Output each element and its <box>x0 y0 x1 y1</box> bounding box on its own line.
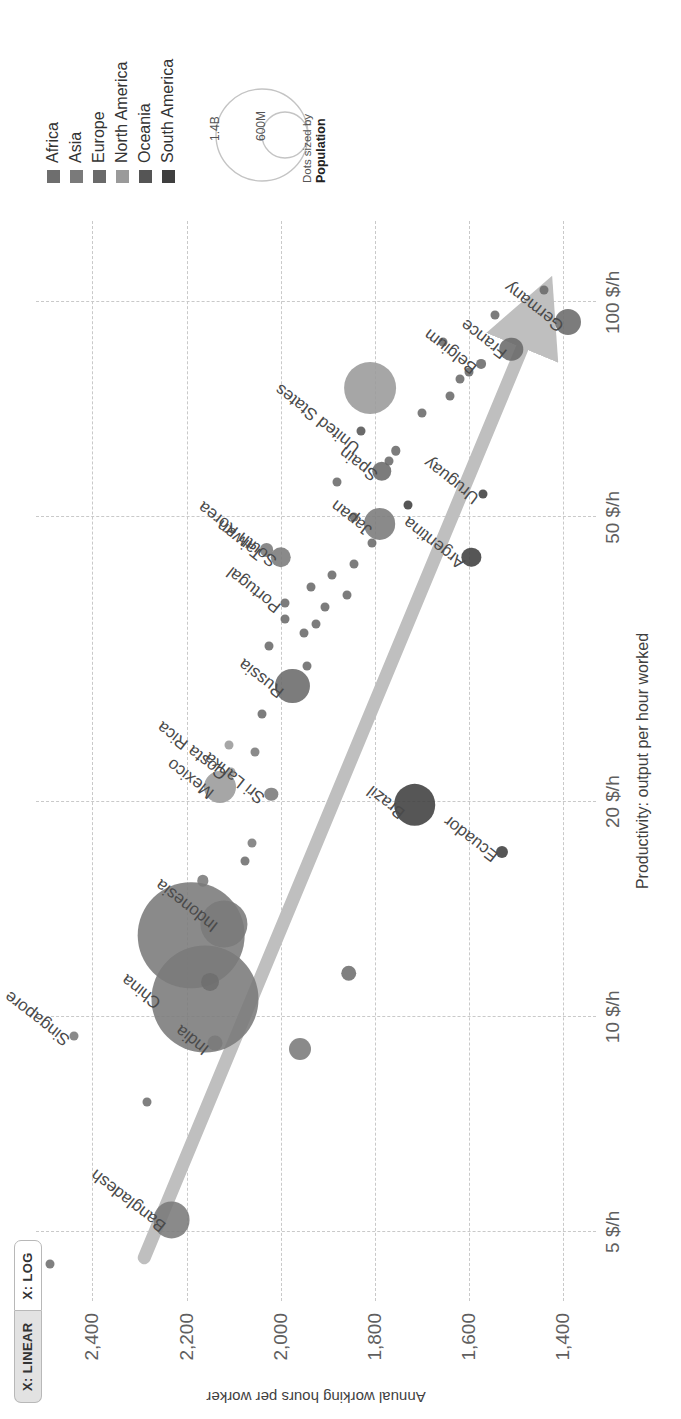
point-label: Japan <box>327 495 376 539</box>
size-legend-big-value: 1.4B <box>208 116 222 141</box>
trend-arrow <box>36 221 596 1301</box>
size-legend-note: Dots sized by Population <box>300 114 330 183</box>
x-linear-toggle[interactable]: X: LINEAR <box>14 1311 42 1403</box>
legend-item-africa[interactable]: Africa <box>44 59 62 183</box>
y-tick-label: 2,000 <box>270 1313 292 1361</box>
figure: X: LINEAR X: LOG BangladeshSingaporeIndi… <box>0 0 681 1419</box>
data-point[interactable] <box>300 628 309 637</box>
y-axis-title: Annual working hours per worker <box>206 1389 425 1406</box>
data-point[interactable] <box>142 1097 151 1106</box>
legend-label: North America <box>113 62 131 163</box>
y-tick-label: 2,200 <box>176 1313 198 1361</box>
data-point[interactable] <box>281 615 290 624</box>
legend-swatch-icon <box>162 170 175 183</box>
data-point[interactable] <box>356 427 365 436</box>
x-tick-label: 5 $/h <box>602 1211 624 1253</box>
x-axis-title: Productivity: output per hour worked <box>634 633 652 889</box>
legend-label: South America <box>159 59 177 163</box>
data-point[interactable] <box>257 710 266 719</box>
data-point[interactable] <box>341 966 357 982</box>
chart-canvas: X: LINEAR X: LOG BangladeshSingaporeIndi… <box>0 0 681 1419</box>
gridline-horizontal <box>469 221 470 1301</box>
point-label: Singapore <box>0 986 73 1049</box>
data-point[interactable] <box>446 391 455 400</box>
legend-item-europe[interactable]: Europe <box>90 59 108 183</box>
data-point[interactable] <box>321 602 330 611</box>
data-point[interactable] <box>224 741 233 750</box>
gridline-vertical <box>36 1016 596 1017</box>
data-point[interactable] <box>333 478 342 487</box>
data-point[interactable] <box>417 409 426 418</box>
y-tick-label: 1,400 <box>552 1313 574 1361</box>
data-point[interactable] <box>248 839 257 848</box>
legend-label: Africa <box>44 122 62 163</box>
size-note-line2: Population <box>314 118 328 183</box>
data-point[interactable] <box>302 661 311 670</box>
data-point[interactable] <box>368 539 377 548</box>
legend-swatch-icon <box>116 170 129 183</box>
size-note-line1: Dots sized by <box>300 114 314 183</box>
data-point[interactable] <box>384 456 393 465</box>
size-legend-small-value: 600M <box>254 111 268 141</box>
gridline-horizontal <box>187 221 188 1301</box>
gridline-horizontal <box>563 221 564 1301</box>
y-tick-label: 2,400 <box>81 1313 103 1361</box>
data-point[interactable] <box>264 642 273 651</box>
point-label: Bangladesh <box>87 1164 170 1235</box>
point-label: Argentina <box>400 512 470 573</box>
x-tick-label: 10 $/h <box>602 990 624 1043</box>
legend-swatch-icon <box>70 170 83 183</box>
data-point-united-states[interactable] <box>344 362 396 414</box>
plot-area: BangladeshSingaporeIndiaChinaIndonesiaSr… <box>36 221 596 1301</box>
x-tick-label: 50 $/h <box>602 491 624 544</box>
x-tick-label: 20 $/h <box>602 775 624 828</box>
legend-label: Europe <box>90 111 108 163</box>
data-point[interactable] <box>307 582 316 591</box>
data-point[interactable] <box>250 747 259 756</box>
point-label: Germany <box>500 277 567 336</box>
data-point[interactable] <box>312 619 321 628</box>
data-point[interactable] <box>289 1038 311 1060</box>
data-point[interactable] <box>241 857 250 866</box>
legend-swatch-icon <box>93 170 106 183</box>
x-tick-label: 100 $/h <box>602 271 624 334</box>
legend-item-asia[interactable]: Asia <box>67 59 85 183</box>
data-point[interactable] <box>391 446 400 455</box>
legend-swatch-icon <box>47 170 60 183</box>
gridline-vertical <box>36 801 596 802</box>
data-point[interactable] <box>403 501 412 510</box>
data-point[interactable] <box>455 375 464 384</box>
point-label: Uruguay <box>420 452 483 507</box>
gridline-vertical <box>36 516 596 517</box>
legend-label: Asia <box>67 132 85 163</box>
gridline-vertical <box>36 1231 596 1232</box>
data-point[interactable] <box>342 590 351 599</box>
legend-label: Oceania <box>136 103 154 163</box>
continent-legend: AfricaAsiaEuropeNorth AmericaOceaniaSout… <box>44 59 182 183</box>
data-point[interactable] <box>349 560 358 569</box>
data-point[interactable] <box>540 286 549 295</box>
gridline-horizontal <box>92 221 93 1301</box>
data-point[interactable] <box>46 1260 55 1269</box>
data-point[interactable] <box>328 571 337 580</box>
y-tick-label: 1,800 <box>364 1313 386 1361</box>
legend-item-south-america[interactable]: South America <box>159 59 177 183</box>
point-label: Portugal <box>223 562 285 617</box>
legend-item-oceania[interactable]: Oceania <box>136 59 154 183</box>
legend-item-north-america[interactable]: North America <box>113 59 131 183</box>
y-tick-label: 1,600 <box>458 1313 480 1361</box>
point-label: Ecuador <box>440 811 502 866</box>
data-point[interactable] <box>490 311 499 320</box>
data-point[interactable] <box>201 973 219 991</box>
legend-swatch-icon <box>139 170 152 183</box>
